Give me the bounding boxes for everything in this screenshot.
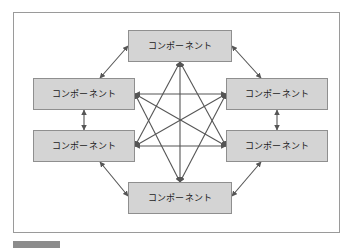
component-node-left-upper[interactable]: コンポーネント xyxy=(33,78,135,110)
component-node-label: コンポーネント xyxy=(52,90,116,99)
component-node-left-lower[interactable]: コンポーネント xyxy=(33,130,135,162)
component-node-right-lower[interactable]: コンポーネント xyxy=(226,130,328,162)
component-node-label: コンポーネント xyxy=(52,142,116,151)
component-node-label: コンポーネント xyxy=(245,90,309,99)
component-node-bottom[interactable]: コンポーネント xyxy=(128,182,232,214)
caption-tag xyxy=(13,241,60,248)
figure-caption xyxy=(13,238,340,250)
component-node-top[interactable]: コンポーネント xyxy=(128,30,232,62)
component-node-right-upper[interactable]: コンポーネント xyxy=(226,78,328,110)
component-node-label: コンポーネント xyxy=(148,194,212,203)
component-node-label: コンポーネント xyxy=(148,42,212,51)
component-node-label: コンポーネント xyxy=(245,142,309,151)
